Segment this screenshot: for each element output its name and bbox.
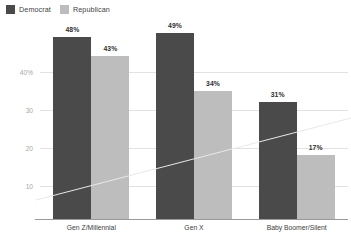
- y-tick-30: 30: [26, 107, 33, 114]
- legend-swatch-republican: [60, 5, 69, 14]
- legend-label-democrat: Democrat: [19, 5, 51, 14]
- x-label-baby-boomer-silent: Baby Boomer/Silent: [245, 221, 348, 235]
- bar-group-gen-x: 49% 34%: [143, 22, 246, 220]
- y-tick-10: 10: [26, 183, 33, 190]
- plot-area: 48% 43% 49% 34%: [40, 22, 348, 220]
- bar-slot-republican: 34%: [194, 22, 232, 220]
- bar-republican-gen-z[interactable]: 43%: [91, 56, 129, 220]
- bar-slot-democrat: 48%: [53, 22, 91, 220]
- bar-group-gen-z-millennial: 48% 43%: [40, 22, 143, 220]
- legend-item-democrat[interactable]: Democrat: [6, 5, 51, 14]
- y-axis: 40% 30 20 10: [0, 22, 33, 220]
- bar-democrat-gen-z[interactable]: 48%: [53, 37, 91, 220]
- bar-democrat-boomer[interactable]: 31%: [259, 102, 297, 220]
- legend-item-republican[interactable]: Republican: [60, 5, 110, 14]
- chart-legend: Democrat Republican: [6, 5, 110, 14]
- legend-swatch-democrat: [6, 5, 15, 14]
- bar-slot-democrat: 49%: [156, 22, 194, 220]
- bar-group-baby-boomer-silent: 31% 17%: [245, 22, 348, 220]
- bar-slot-republican: 43%: [91, 22, 129, 220]
- x-axis-line: [35, 219, 348, 220]
- x-axis-labels: Gen Z/Millennial Gen X Baby Boomer/Silen…: [40, 221, 348, 235]
- legend-label-republican: Republican: [73, 5, 110, 14]
- bar-value-republican-boomer: 17%: [297, 144, 335, 151]
- x-label-gen-z-millennial: Gen Z/Millennial: [40, 221, 143, 235]
- bar-value-republican-gen-x: 34%: [194, 80, 232, 87]
- bar-republican-gen-x[interactable]: 34%: [194, 91, 232, 220]
- bar-democrat-gen-x[interactable]: 49%: [156, 33, 194, 220]
- bar-chart: Democrat Republican 40% 30 20 10 48%: [0, 0, 351, 239]
- bar-groups: 48% 43% 49% 34%: [40, 22, 348, 220]
- bar-slot-republican: 17%: [297, 22, 335, 220]
- y-tick-20: 20: [26, 145, 33, 152]
- bar-value-democrat-gen-z: 48%: [53, 26, 91, 33]
- bar-value-republican-gen-z: 43%: [91, 45, 129, 52]
- bar-value-democrat-boomer: 31%: [259, 91, 297, 98]
- x-label-gen-x: Gen X: [143, 221, 246, 235]
- bar-republican-boomer[interactable]: 17%: [297, 155, 335, 220]
- bar-slot-democrat: 31%: [259, 22, 297, 220]
- bar-value-democrat-gen-x: 49%: [156, 22, 194, 29]
- y-tick-40: 40%: [20, 69, 33, 76]
